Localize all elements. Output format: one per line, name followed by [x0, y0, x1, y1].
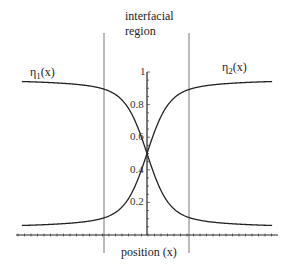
eta1-label: η1(x) — [30, 66, 55, 81]
eta1-arg: (x) — [41, 65, 55, 79]
eta2-label: η2(x) — [222, 61, 247, 76]
y-tick-label: 0.6 — [130, 131, 144, 142]
y-tick-label: 0.2 — [130, 196, 144, 207]
eta2-arg: (x) — [233, 60, 247, 74]
phase-field-chart — [0, 0, 290, 273]
y-tick-label: 1 — [140, 66, 146, 77]
x-axis-label: position (x) — [121, 246, 177, 258]
region-label-line1: interfacial — [125, 9, 174, 24]
interfacial-region-label: interfacial region — [125, 9, 174, 39]
y-tick-label: 0.4 — [130, 164, 144, 175]
region-label-line2: region — [125, 24, 174, 39]
y-tick-label: 0.8 — [130, 99, 144, 110]
